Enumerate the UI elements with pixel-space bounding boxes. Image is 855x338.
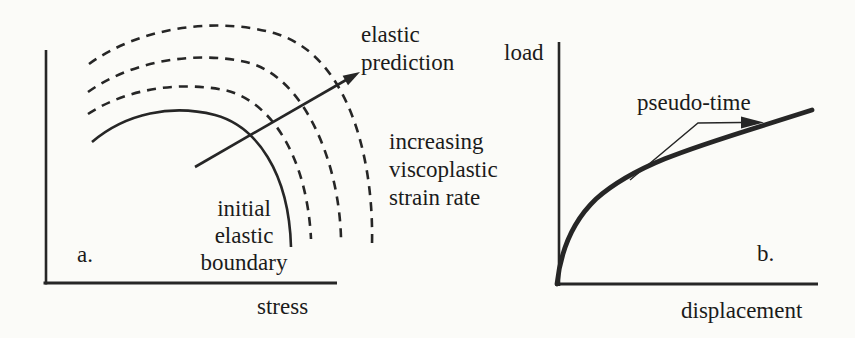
panel-b-tag: b. bbox=[757, 240, 774, 268]
panel-a-tag: a. bbox=[77, 241, 93, 269]
elastic-prediction-arrowhead-icon bbox=[343, 72, 360, 85]
increasing-strain-rate-label: increasing viscoplastic strain rate bbox=[389, 128, 498, 212]
elastic-prediction-label-line2: prediction bbox=[361, 49, 454, 77]
elastic-prediction-label: elastic prediction bbox=[361, 21, 454, 77]
initial-elastic-boundary-label-line1: initial bbox=[176, 195, 312, 222]
stress-axis-label: stress bbox=[257, 293, 308, 321]
figure-canvas: elastic prediction increasing viscoplast… bbox=[0, 0, 855, 338]
elastic-prediction-arrow-shaft bbox=[195, 80, 346, 167]
increasing-strain-rate-label-line2: viscoplastic bbox=[389, 156, 498, 184]
displacement-axis-label: displacement bbox=[681, 297, 802, 325]
elastic-prediction-label-line1: elastic bbox=[361, 21, 454, 49]
pseudo-time-label: pseudo-time bbox=[637, 89, 751, 117]
increasing-strain-rate-label-line3: strain rate bbox=[389, 184, 498, 212]
initial-elastic-boundary-label-line2: elastic bbox=[176, 222, 312, 249]
initial-elastic-boundary-label: initial elastic boundary bbox=[176, 195, 312, 276]
initial-elastic-boundary-label-line3: boundary bbox=[176, 249, 312, 276]
load-axis-label: load bbox=[504, 39, 544, 67]
increasing-strain-rate-label-line1: increasing bbox=[389, 128, 498, 156]
